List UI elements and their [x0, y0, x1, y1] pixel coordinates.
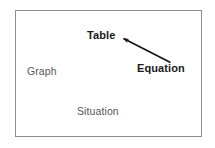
node-label-table: Table — [87, 30, 115, 41]
clipped-edge-text-artifact: ≡ — [0, 48, 6, 68]
figure-canvas: ≡ Table Equation Graph Situation — [0, 0, 215, 148]
node-label-graph: Graph — [27, 66, 57, 77]
node-label-equation: Equation — [137, 63, 185, 74]
node-label-situation: Situation — [77, 106, 119, 117]
